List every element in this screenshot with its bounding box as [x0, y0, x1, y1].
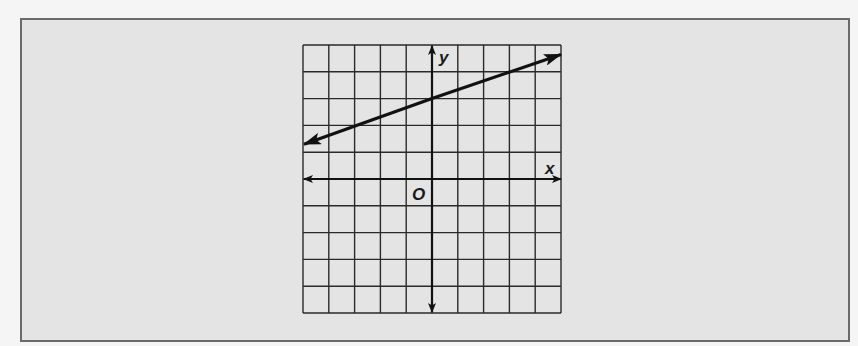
x-axis-label: x: [544, 159, 556, 178]
plotted-line: [432, 54, 561, 98]
origin-label: O: [412, 185, 425, 204]
y-axis-label: y: [438, 48, 450, 67]
coordinate-plane: y x O: [0, 0, 858, 346]
plotted-line: [304, 99, 432, 145]
